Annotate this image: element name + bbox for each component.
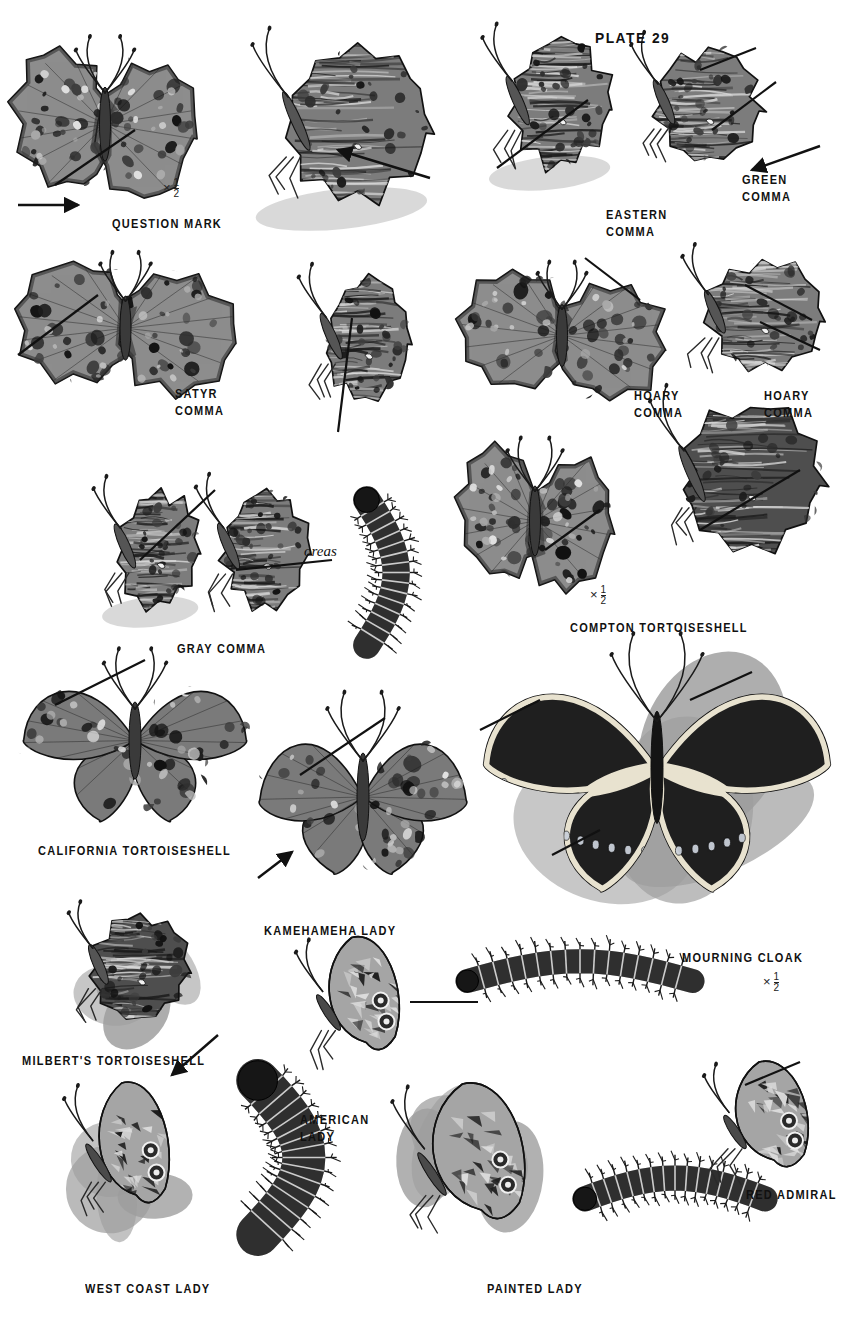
species-label-compton-tortoiseshell: COMPTON TORTOISESHELL (570, 620, 748, 637)
scale-denominator: 2 (601, 595, 607, 606)
pointer-question-mark-hook-line (55, 130, 135, 185)
pointer-red-admiral-line (745, 1062, 800, 1085)
scale-denominator: 2 (174, 188, 180, 199)
butterfly-plate: QUESTION MARKEASTERN COMMAGREEN COMMASAT… (0, 0, 853, 1338)
pointer-compton-ventral-line (700, 470, 800, 530)
scale-numerator: 1 (774, 972, 780, 982)
pointer-green-comma-c-arrow (752, 146, 820, 170)
scale-numerator: 1 (601, 585, 607, 595)
pointer-compton-line (545, 510, 600, 550)
scale-fraction: 12 (601, 585, 607, 606)
species-label-satyr-comma: SATYR COMMA (175, 386, 224, 420)
pointer-mourning-upper-line (480, 700, 540, 730)
species-label-eastern-comma: EASTERN COMMA (606, 207, 668, 241)
species-label-painted-lady: PAINTED LADY (487, 1281, 583, 1298)
pointer-oreas-line (236, 560, 332, 570)
pointer-hoary-ventral-line (745, 285, 812, 320)
species-label-american-lady: AMERICAN LADY (300, 1112, 369, 1146)
species-label-california-tortoiseshell: CALIFORNIA TORTOISESHELL (38, 843, 231, 860)
pointer-eastern-comma-line (497, 100, 588, 168)
species-label-hoary-comma-ventral: HOARY COMMA (764, 388, 813, 422)
pointer-kamehameha-lower-arrow (258, 852, 292, 878)
pointer-satyr-ventral-line (338, 318, 352, 432)
pointer-kamehameha-upper-line (300, 718, 385, 775)
species-label-green-comma: GREEN COMMA (742, 172, 791, 206)
pointer-mourning-right-line (690, 672, 752, 700)
scale-denominator: 2 (774, 982, 780, 993)
pointer-hoary-ventral-b-line (760, 322, 820, 350)
scale-note-compton-scale: ×12 (590, 585, 606, 606)
species-label-question-mark: QUESTION MARK (112, 216, 222, 233)
species-label-west-coast-lady: WEST COAST LADY (85, 1281, 210, 1298)
scale-fraction: 12 (174, 178, 180, 199)
species-label-mourning-cloak: MOURNING CLOAK (682, 950, 803, 967)
pointer-california-line (55, 660, 145, 705)
annotation-oreas-subspecies: oreas (304, 543, 337, 560)
species-label-milberts-tortoiseshell: MILBERT'S TORTOISESHELL (22, 1053, 205, 1070)
scale-multiply-symbol: × (763, 974, 771, 989)
pointer-green-comma-a-line (700, 48, 756, 70)
pointer-green-comma-b-line (712, 82, 776, 130)
scale-fraction: 12 (774, 972, 780, 993)
pointer-gray-comma-a-line (140, 490, 215, 560)
pointer-satyr-comma-line (18, 295, 98, 355)
pointer-layer (0, 0, 853, 1338)
pointer-question-mark-silver-arrow (338, 150, 430, 178)
scale-numerator: 1 (174, 178, 180, 188)
plate-header: PLATE 29 (595, 29, 670, 46)
scale-multiply-symbol: × (590, 587, 598, 602)
scale-note-question-mark-scale: ×12 (163, 178, 179, 199)
scale-note-mourning-cloak-scale: ×12 (763, 972, 779, 993)
scale-multiply-symbol: × (163, 180, 171, 195)
species-label-kamehameha-lady: KAMEHAMEHA LADY (264, 923, 396, 940)
species-label-gray-comma: GRAY COMMA (177, 641, 266, 658)
species-label-red-admiral: RED ADMIRAL (746, 1187, 837, 1204)
pointer-mourning-lower-line (552, 830, 600, 855)
pointer-hoary-dorsal-line (585, 258, 640, 300)
species-label-hoary-comma-dorsal: HOARY COMMA (634, 388, 683, 422)
